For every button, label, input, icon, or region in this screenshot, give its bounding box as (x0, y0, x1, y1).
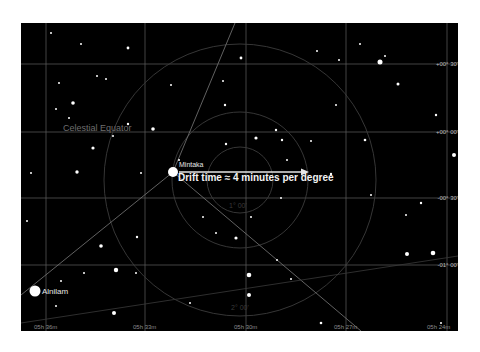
dec-label: +00° 00' (436, 129, 458, 135)
ra-label: 05h 24m (427, 324, 450, 330)
star-label-alnilam: Alnilam (42, 287, 68, 296)
circle-radius-label: 2° 00' (231, 304, 249, 311)
circle-radius-label: 1° 00' (229, 202, 247, 209)
dec-label: +00° 30' (436, 61, 458, 67)
ra-label: 05h 27m (334, 324, 357, 330)
star-label-mintaka: Mintaka (179, 161, 204, 168)
ra-label: 05h 33m (133, 324, 156, 330)
dec-label: -00° 30' (437, 195, 458, 201)
ra-label: 05h 36m (34, 324, 57, 330)
star-chart: +00° 30' +00° 00' -00° 30' -01° 00' 05h … (21, 23, 458, 331)
drift-time-annotation: Drift time ≈ 4 minutes per degree (178, 172, 334, 183)
ra-label: 05h 30m (234, 324, 257, 330)
celestial-equator-label: Celestial Equator (63, 123, 132, 133)
dec-label: -01° 00' (437, 262, 458, 268)
